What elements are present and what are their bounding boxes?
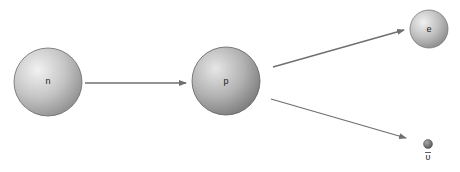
electron-label: e (426, 24, 431, 34)
beta-decay-diagram: n p e υ (0, 0, 460, 172)
neutron-label: n (45, 76, 50, 86)
proton-label: p (223, 76, 228, 86)
antineutrino-label: υ (426, 152, 431, 162)
neutron-particle: n (14, 48, 82, 116)
electron-particle: e (410, 10, 448, 48)
antineutrino-particle: υ (424, 140, 433, 163)
proton-particle: p (192, 47, 260, 115)
arrow-proton-to-antineutrino (271, 99, 406, 138)
arrow-proton-to-electron (273, 30, 404, 67)
